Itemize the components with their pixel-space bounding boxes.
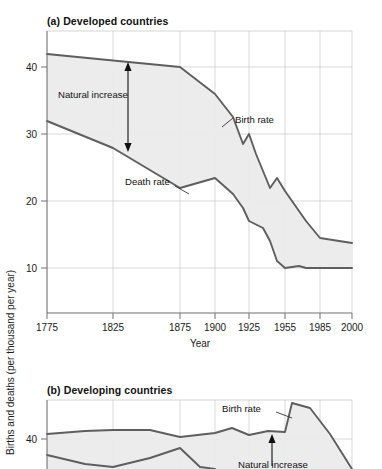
panel-a-xtick-1900: 1900 — [204, 322, 227, 333]
panel-a-natural-increase-label: Natural increase — [58, 89, 128, 100]
panel-a-title: (a) Developed countries — [47, 15, 168, 27]
y-axis-title: Births and deaths (per thousand per year… — [5, 270, 16, 455]
panel-b-ytick-40: 40 — [26, 434, 38, 445]
panel-a-xtick-1775: 1775 — [36, 322, 59, 333]
panel-a-ytick-20: 20 — [26, 196, 38, 207]
panel-b-natural-increase-label: Natural increase — [238, 459, 308, 469]
panel-b-title: (b) Developing countries — [47, 384, 173, 396]
panel-a-xtick-1985: 1985 — [309, 322, 332, 333]
panel-a-ytick-40: 40 — [26, 62, 38, 73]
panel-a-ytick-10: 10 — [26, 263, 38, 274]
panel-a: (a) Developed countries — [26, 15, 364, 349]
panel-a-ytick-30: 30 — [26, 129, 38, 140]
panel-a-birth-rate-label: Birth rate — [235, 114, 274, 125]
panel-a-xtick-2000: 2000 — [341, 322, 364, 333]
panel-a-death-rate-label: Death rate — [125, 176, 170, 187]
panel-a-x-axis-title: Year — [190, 338, 211, 349]
panel-a-xtick-1925: 1925 — [238, 322, 261, 333]
panel-a-xtick-1955: 1955 — [274, 322, 297, 333]
panel-b: (b) Developing countries Birth rate Natu… — [26, 384, 352, 469]
figure-svg: Births and deaths (per thousand per year… — [0, 0, 382, 469]
population-transition-figure: Births and deaths (per thousand per year… — [0, 0, 382, 469]
panel-a-x-ticks — [47, 313, 352, 319]
panel-b-birth-rate-label: Birth rate — [222, 403, 261, 414]
panel-a-xtick-1875: 1875 — [169, 322, 192, 333]
panel-a-xtick-1825: 1825 — [102, 322, 125, 333]
panel-a-y-ticks — [41, 67, 47, 268]
